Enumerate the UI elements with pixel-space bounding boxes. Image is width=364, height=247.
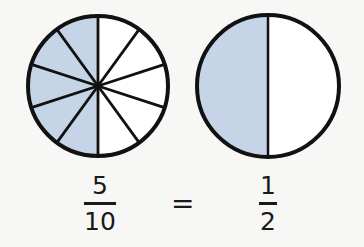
fraction-bar bbox=[84, 202, 116, 205]
fraction-one-half: 1 2 bbox=[259, 172, 277, 236]
fraction-bar bbox=[259, 202, 277, 205]
denominator: 2 bbox=[260, 208, 276, 236]
numerator: 1 bbox=[260, 172, 276, 200]
circle-divided-into-halves bbox=[197, 15, 339, 157]
shaded-sector bbox=[197, 15, 268, 157]
denominator: 10 bbox=[84, 208, 116, 236]
equals-sign: = bbox=[171, 187, 194, 220]
fraction-five-tenths: 5 10 bbox=[84, 172, 116, 236]
circle-divided-into-tenths bbox=[28, 16, 168, 156]
numerator: 5 bbox=[92, 172, 108, 200]
